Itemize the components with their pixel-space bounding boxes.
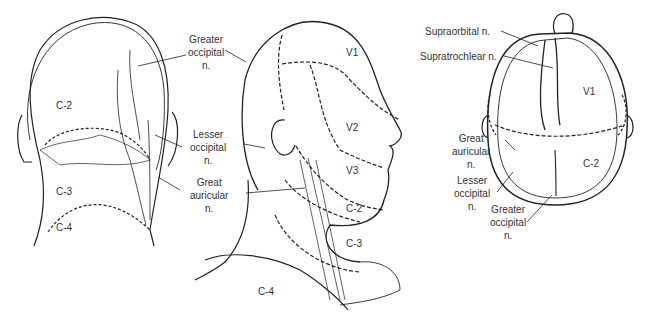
zone-v2-lateral: V2 — [346, 122, 358, 133]
label-line: Greater — [490, 203, 526, 216]
label-supraorbital: Supraorbital n. — [425, 25, 490, 38]
label-great-auricular-superior: Great auricular n. — [452, 132, 490, 171]
label-line: auricular — [190, 189, 228, 202]
label-supratrochlear: Supratrochlear n. — [420, 50, 497, 63]
zone-c4-lateral: C-4 — [258, 286, 274, 297]
label-line: n. — [190, 202, 228, 215]
label-line: Greater — [188, 33, 224, 46]
label-lesser-occipital-superior: Lesser occipital n. — [454, 174, 490, 213]
label-line: occipital — [188, 46, 224, 59]
label-line: n. — [490, 229, 526, 242]
zone-c3-posterior: C-3 — [56, 186, 72, 197]
zone-c4-posterior: C-4 — [56, 222, 72, 233]
zone-v1-lateral: V1 — [346, 47, 358, 58]
label-line: occipital — [454, 187, 490, 200]
label-line: Lesser — [454, 174, 490, 187]
label-greater-occipital-posterior: Greater occipital n. — [188, 33, 224, 72]
zone-c2-lateral: C-2 — [346, 203, 362, 214]
label-greater-occipital-superior: Greater occipital n. — [490, 203, 526, 242]
superior-head-drawing — [482, 14, 633, 222]
zone-v1-superior: V1 — [583, 86, 595, 97]
label-line: Great — [452, 132, 490, 145]
label-line: occipital — [490, 216, 526, 229]
label-line: n. — [454, 200, 490, 213]
label-line: Lesser — [190, 128, 226, 141]
label-line: n. — [190, 154, 226, 167]
zone-c2-posterior: C-2 — [56, 100, 72, 111]
label-lesser-occipital-posterior: Lesser occipital n. — [190, 128, 226, 167]
dermatome-illustration — [0, 0, 660, 322]
zone-c2-superior: C-2 — [583, 158, 599, 169]
label-great-auricular-posterior: Great auricular n. — [190, 176, 228, 215]
label-line: Great — [190, 176, 228, 189]
label-line: n. — [188, 59, 224, 72]
label-line: auricular — [452, 145, 490, 158]
label-line: occipital — [190, 141, 226, 154]
label-line: n. — [452, 158, 490, 171]
zone-v3-lateral: V3 — [346, 165, 358, 176]
posterior-head-drawing — [18, 18, 186, 246]
zone-c3-lateral: C-3 — [346, 238, 362, 249]
